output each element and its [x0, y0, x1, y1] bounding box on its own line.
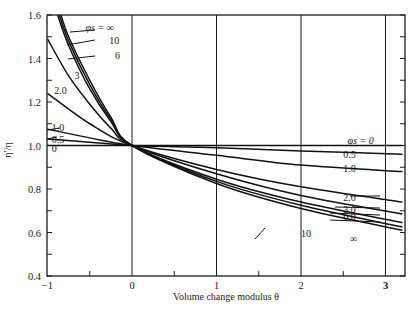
curve-label: 10: [301, 228, 311, 239]
curve-label: 2.0: [343, 192, 356, 203]
x-tick-label: 1: [214, 280, 219, 291]
curve-label: 3: [75, 70, 80, 81]
curve-label: 1.0: [52, 122, 65, 133]
x-tick-label: −1: [42, 280, 53, 291]
leader-line: [335, 207, 380, 208]
curve-label: ∞: [350, 233, 357, 244]
curve-label: 1.0: [343, 163, 356, 174]
y-tick-label: 1.4: [28, 54, 42, 65]
leader-line: [68, 56, 95, 59]
y-tick-labels: 0.40.60.81.01.21.41.6: [28, 10, 42, 282]
curve-label: 2.0: [54, 85, 66, 96]
y-tick-label: 1.2: [28, 97, 41, 108]
curve-label: 10: [109, 35, 119, 46]
leader-line: [255, 228, 265, 239]
x-axis-title: Volume change modulus θ: [173, 291, 279, 302]
curve-label: 6: [115, 50, 120, 61]
curve-label: φs = ∞: [86, 22, 114, 33]
x-tick-label: 2: [298, 280, 303, 291]
curve-label: 0.5: [343, 149, 356, 160]
curve-phi-3.0: [48, 39, 403, 214]
x-tick-labels: −10123: [42, 280, 388, 291]
y-tick-label: 0.8: [28, 184, 41, 195]
y-axis-title: η′/η: [2, 142, 13, 157]
y-tick-label: 1.6: [28, 10, 41, 21]
curve-label: φs = 0: [347, 135, 373, 146]
y-tick-label: 0.6: [28, 228, 41, 239]
y-tick-label: 1.0: [28, 141, 41, 152]
chart-container: −10123 0.40.60.81.01.21.41.6 φs = ∞10632…: [0, 0, 414, 309]
curve-label: 6.0: [343, 211, 356, 222]
x-tick-label: 3: [383, 280, 388, 291]
line-chart: −10123 0.40.60.81.01.21.41.6 φs = ∞10632…: [0, 0, 414, 309]
y-tick-label: 0.4: [28, 271, 42, 282]
x-tick-label: 0: [129, 280, 134, 291]
curve-label: 0: [52, 143, 57, 154]
